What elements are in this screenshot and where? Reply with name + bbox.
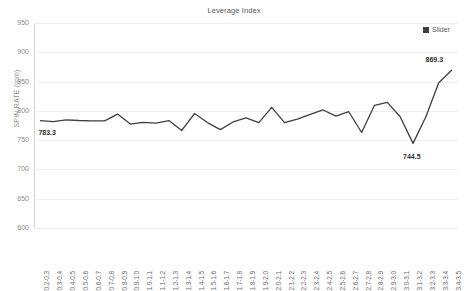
- x-axis-tick-label: 3.4-3.5: [455, 271, 462, 291]
- x-axis-tick-label: 2.5-2.6: [339, 271, 346, 291]
- x-axis-tick-label: 1.3-1.4: [185, 271, 192, 291]
- y-axis-tick-label: 700: [0, 165, 29, 172]
- x-axis-tick-label: 2.7-2.8: [365, 271, 372, 291]
- x-axis-tick-label: 2.3-2.4: [313, 271, 320, 291]
- x-axis-tick-label: 1.1-1.2: [159, 271, 166, 291]
- x-axis-tick-label: 0.3-0.4: [56, 271, 63, 291]
- x-axis-tick-label: 1.9-2.0: [262, 271, 269, 291]
- x-axis-tick-label: 3.3-3.4: [442, 271, 449, 291]
- x-axis-tick-label: 2.2-2.3: [300, 271, 307, 291]
- y-axis-tick-label: 750: [0, 136, 29, 143]
- x-axis-tick-label: 3.0-3.1: [403, 271, 410, 291]
- gridline: [34, 228, 458, 229]
- x-axis-tick-label: 3.2-3.3: [429, 271, 436, 291]
- series-slider: [34, 23, 458, 228]
- x-axis-tick-label: 0.6-0.7: [95, 271, 102, 291]
- y-axis-tick-label: 600: [0, 224, 29, 231]
- x-axis-tick-label: 1.0-1.1: [146, 271, 153, 291]
- x-axis-tick-label: 2.8-2.9: [377, 271, 384, 291]
- plot-area: 783.3744.5869.3: [34, 23, 458, 228]
- x-axis-tick-label: 0.2-0.3: [43, 271, 50, 291]
- x-axis-tick-label: 1.8-1.9: [249, 271, 256, 291]
- x-axis-tick-label: 1.7-1.8: [236, 271, 243, 291]
- x-axis-tick-label: 2.6-2.7: [352, 271, 359, 291]
- x-axis-tick-label: 0.9-1.0: [133, 271, 140, 291]
- x-axis-tick-label: 3.1-3.2: [416, 271, 423, 291]
- y-axis-tick-label: 900: [0, 48, 29, 55]
- x-axis-tick-label: 1.4-1.5: [198, 271, 205, 291]
- x-axis-tick-label: 2.0-2.1: [275, 271, 282, 291]
- data-label: 783.3: [38, 129, 56, 136]
- y-axis-tick-label: 950: [0, 19, 29, 26]
- x-axis-tick-label: 1.5-1.6: [210, 271, 217, 291]
- x-axis-tick-label: 0.7-0.8: [108, 271, 115, 291]
- x-axis-tick-label: 2.9-3.0: [390, 271, 397, 291]
- data-label: 744.5: [403, 153, 421, 160]
- x-axis-tick-label: 0.5-0.6: [82, 271, 89, 291]
- x-axis-tick-labels: 0.2-0.30.3-0.40.4-0.50.5-0.60.6-0.70.7-0…: [34, 231, 458, 273]
- x-axis-tick-label: 2.1-2.2: [288, 271, 295, 291]
- x-axis-tick-label: 0.4-0.5: [69, 271, 76, 291]
- y-axis-tick-label: 650: [0, 195, 29, 202]
- x-axis-tick-label: 1.2-1.3: [172, 271, 179, 291]
- y-axis-tick-label: 800: [0, 107, 29, 114]
- x-axis-tick-label: 1.6-1.7: [223, 271, 230, 291]
- y-axis-tick-label: 850: [0, 78, 29, 85]
- data-label: 869.3: [426, 56, 444, 63]
- series-line: [40, 70, 451, 143]
- x-axis-tick-label: 0.8-0.9: [121, 271, 128, 291]
- x-axis-tick-label: 2.4-2.5: [326, 271, 333, 291]
